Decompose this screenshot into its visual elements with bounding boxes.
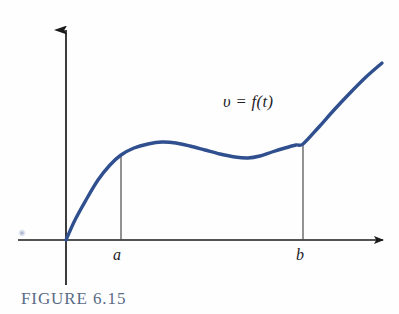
x-axis-tick-label-b: b [296,247,304,263]
figure-container: υ = f(t) a b FIGURE 6.15 [0,0,399,314]
graph-plot-svg [0,0,399,314]
figure-caption: FIGURE 6.15 [21,289,126,309]
function-curve [66,63,382,240]
curve-equation-label: υ = f(t) [223,94,273,111]
x-axis-tick-label-a: a [113,247,121,263]
